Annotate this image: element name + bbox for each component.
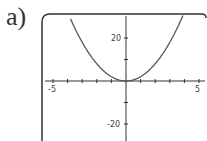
parabola-chart: -5 5 20 -20: [0, 0, 207, 141]
chart-frame: [42, 14, 206, 141]
x-tick-label-neg5: -5: [48, 85, 56, 94]
x-tick-label-5: 5: [195, 85, 200, 94]
y-tick-label-neg20: -20: [107, 120, 120, 129]
y-tick-label-20: 20: [111, 34, 121, 43]
parabola-curve: [71, 16, 183, 81]
